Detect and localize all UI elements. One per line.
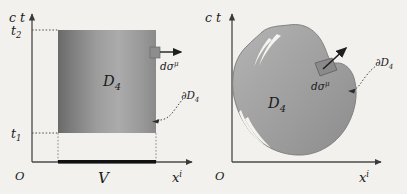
- boundary-leader-line: [157, 99, 183, 120]
- boundary-leader-line: [353, 66, 376, 90]
- origin-label: O: [15, 169, 25, 183]
- surface-element-patch: [150, 47, 160, 58]
- tick-label-t2: t2: [11, 23, 21, 40]
- volume-v-bar: [58, 160, 156, 164]
- spacetime-region-figure: c t t2 t1 O xi V D4 dσμ ∂D4: [0, 0, 407, 194]
- right-panel-canvas: c t O xi D4 dσμ ∂D4: [203, 0, 407, 194]
- panel-general-region: c t O xi D4 dσμ ∂D4: [203, 0, 407, 194]
- x-axis-label: xi: [359, 169, 369, 185]
- y-axis-label: c t: [205, 10, 222, 25]
- x-axis-label: xi: [172, 169, 182, 185]
- origin-label: O: [215, 169, 225, 183]
- surface-element-label: dσμ: [160, 60, 179, 72]
- left-panel-canvas: c t t2 t1 O xi V D4 dσμ ∂D4: [0, 0, 204, 194]
- tick-label-t1: t1: [11, 126, 21, 143]
- boundary-label: ∂D4: [375, 56, 393, 71]
- region-d4-blob: [233, 25, 357, 156]
- volume-label: V: [98, 169, 111, 187]
- boundary-label: ∂D4: [181, 89, 199, 104]
- panel-cylindrical-region: c t t2 t1 O xi V D4 dσμ ∂D4: [0, 0, 204, 194]
